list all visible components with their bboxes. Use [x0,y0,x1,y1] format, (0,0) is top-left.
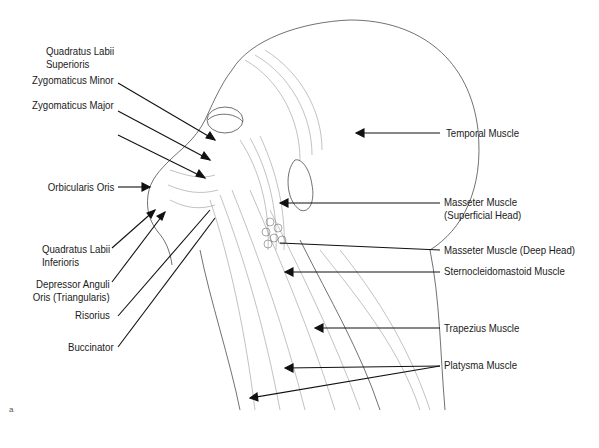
label-line: Oris (Triangularis) [33,291,110,304]
label-line: Superioris [46,58,114,71]
label-zygomaticus-major: Zygomaticus Major [32,99,114,112]
label-sternocleidomastoid: Sternocleidomastoid Muscle [444,265,565,278]
label-line: Zygomaticus Minor [32,74,114,87]
label-line: Temporal Muscle [446,127,519,140]
label-depressor-anguli-oris: Depressor Anguli Oris (Triangularis) [33,278,110,304]
label-line: Masseter Muscle [444,196,521,209]
label-masseter-superficial: Masseter Muscle (Superficial Head) [444,196,521,222]
label-line: Quadratus Labii [46,45,114,58]
label-zygomaticus-minor: Zygomaticus Minor [32,74,114,87]
label-line: Inferioris [42,256,110,269]
label-trapezius: Trapezius Muscle [444,322,519,335]
label-line: Orbicularis Oris [47,181,114,194]
label-temporal-muscle: Temporal Muscle [446,127,519,140]
label-quadratus-labii-inferioris: Quadratus Labii Inferioris [42,243,110,269]
label-line: Risorius [75,309,110,322]
label-line: Trapezius Muscle [444,322,519,335]
label-line: Sternocleidomastoid Muscle [444,265,565,278]
label-buccinator: Buccinator [68,341,114,354]
label-risorius: Risorius [75,309,110,322]
label-line: Quadratus Labii [42,243,110,256]
label-quadratus-labii-superioris: Quadratus Labii Superioris [46,45,114,71]
label-line: Depressor Anguli [33,278,110,291]
label-line: Buccinator [68,341,114,354]
label-line: Zygomaticus Major [32,99,114,112]
label-platysma: Platysma Muscle [444,359,517,372]
panel-label: a [9,405,13,414]
label-line: Masseter Muscle (Deep Head) [444,244,575,257]
label-orbicularis-oris: Orbicularis Oris [47,181,114,194]
label-line: Platysma Muscle [444,359,517,372]
label-line: (Superficial Head) [444,209,521,222]
label-masseter-deep: Masseter Muscle (Deep Head) [444,244,575,257]
